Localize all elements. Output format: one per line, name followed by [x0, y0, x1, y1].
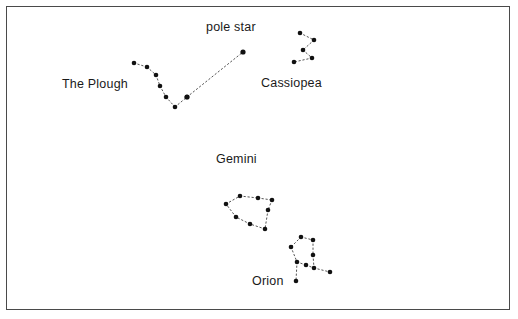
star-point: [234, 215, 239, 220]
star-point: [266, 208, 271, 213]
constellation-label-the-plough: The Plough: [62, 77, 128, 91]
star-point: [299, 235, 304, 240]
star-point: [301, 48, 306, 53]
constellation-label-gemini: Gemini: [216, 152, 257, 166]
star-point: [240, 49, 245, 54]
constellation-link: [265, 210, 268, 229]
constellation-link: [226, 204, 236, 217]
constellation-link: [314, 268, 330, 272]
star-point: [298, 31, 303, 36]
star-point: [158, 84, 163, 89]
constellation-link: [240, 196, 258, 198]
constellation-link: [294, 58, 312, 62]
star-point: [132, 61, 137, 66]
star-point: [248, 222, 253, 227]
star-point: [311, 238, 316, 243]
constellation-pointer-line-to-pole-star: [184, 49, 245, 99]
constellation-label-cassiopea: Cassiopea: [261, 76, 322, 90]
star-point: [173, 105, 178, 110]
star-point: [292, 60, 297, 65]
constellation-link: [291, 247, 297, 262]
star-point: [312, 266, 317, 271]
constellation-the-plough: [132, 61, 190, 110]
constellation-link: [296, 262, 297, 281]
star-point: [154, 73, 159, 78]
constellation-canvas: [0, 0, 518, 319]
star-point: [310, 56, 315, 61]
star-point: [295, 260, 300, 265]
constellation-label-orion: Orion: [252, 274, 284, 288]
constellation-link: [187, 52, 243, 97]
star-point: [311, 253, 316, 258]
star-point: [145, 65, 150, 70]
star-point: [263, 227, 268, 232]
constellation-gemini: [224, 194, 275, 232]
star-point: [224, 202, 229, 207]
star-point: [304, 263, 309, 268]
constellation-link: [236, 217, 250, 224]
star-point: [270, 198, 275, 203]
star-point: [256, 196, 261, 201]
night-sky-chart-figure: The Plough pole star Cassiopea Gemini Or…: [0, 0, 518, 319]
star-point: [184, 94, 189, 99]
star-point: [164, 95, 169, 100]
star-point: [328, 270, 333, 275]
constellation-label-pole-star: pole star: [206, 20, 256, 34]
constellation-link: [226, 196, 240, 204]
star-point: [312, 38, 317, 43]
star-point: [289, 245, 294, 250]
constellation-orion: [289, 235, 333, 284]
constellation-link: [250, 224, 265, 229]
star-point: [294, 279, 299, 284]
constellation-cassiopea: [292, 31, 317, 65]
constellation-link: [300, 33, 314, 40]
star-point: [238, 194, 243, 199]
